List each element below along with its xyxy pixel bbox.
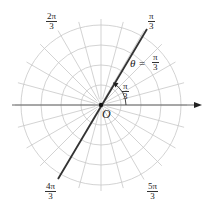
- ray-label-2pi-over-3: 2π 3: [46, 12, 57, 31]
- origin-label: O: [102, 107, 111, 122]
- grid-radial-line: [107, 83, 184, 104]
- grid-radial-line: [40, 44, 97, 101]
- grid-radial-line: [18, 83, 95, 104]
- grid-radial-line: [40, 109, 97, 166]
- theta-equation-lhs: θ =: [130, 57, 146, 69]
- ray-label-pi-over-3: π 3: [148, 12, 155, 31]
- grid-radial-line: [107, 107, 184, 128]
- polar-diagram: O θ = π 3 π 3 π 3 2π 3 4π 3 5π 3: [0, 0, 215, 213]
- grid-radial-line: [79, 22, 100, 99]
- ray-label-4pi-over-3: 4π 3: [45, 182, 56, 201]
- grid-radial-line: [18, 107, 95, 128]
- grid-radial-line: [27, 62, 101, 105]
- grid-radial-line: [101, 105, 175, 148]
- angle-marker-fraction: π 3: [122, 82, 129, 101]
- axis-arrow-icon: [194, 102, 202, 108]
- grid-radial-line: [105, 109, 162, 166]
- theta-equation-fraction: π 3: [152, 53, 159, 72]
- grid-radial-line: [103, 111, 124, 188]
- ray-label-5pi-over-3: 5π 3: [147, 182, 158, 201]
- grid-radial-line: [58, 31, 101, 105]
- grid-radial-line: [79, 111, 100, 188]
